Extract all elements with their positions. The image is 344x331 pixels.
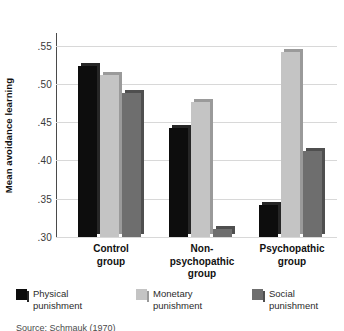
- x-tick-label-psychopathic: Psychopathic group: [237, 243, 344, 268]
- legend-item-monetary[interactable]: Monetary punishment: [136, 288, 202, 312]
- y-tick-label-30: .30: [37, 232, 52, 243]
- bar-monetary-punishment-1: [191, 102, 213, 237]
- bar-side-shade: [141, 90, 144, 234]
- legend-swatch-icon: [252, 289, 263, 300]
- bar-physical-punishment-1: [169, 128, 191, 237]
- y-tick-label-45: .45: [37, 117, 52, 128]
- bar-chart-figure: Mean avoidance learning .55 .50 .45 .40 …: [0, 0, 344, 331]
- legend-item-physical[interactable]: Physical punishment: [16, 288, 82, 312]
- source-caption: Source: Schmauk (1970): [16, 323, 116, 331]
- bar-social-punishment-1: [213, 229, 235, 237]
- bar-face: [100, 75, 119, 237]
- bar-group-psychopathic: [259, 33, 325, 237]
- bar-face: [259, 205, 278, 237]
- bar-side-shade: [210, 99, 213, 234]
- legend-swatch-shade: [263, 291, 265, 302]
- y-tick-label-35: .35: [37, 193, 52, 204]
- legend-label: Social punishment: [269, 288, 318, 312]
- bar-social-punishment-0: [122, 93, 144, 237]
- bar-face: [281, 52, 300, 237]
- y-tick-label-55: .55: [37, 40, 52, 51]
- y-axis-title: Mean avoidance learning: [2, 33, 16, 238]
- bar-face: [303, 151, 322, 237]
- bar-face: [213, 229, 232, 237]
- bar-face: [78, 66, 97, 237]
- legend-item-social[interactable]: Social punishment: [252, 288, 318, 312]
- bar-group-control: [78, 33, 144, 237]
- legend-swatch-icon: [16, 289, 27, 300]
- legend-label: Monetary punishment: [153, 288, 202, 312]
- x-label-line: Psychopathic: [237, 243, 344, 256]
- x-label-line: group: [147, 268, 257, 281]
- bar-face: [191, 102, 210, 237]
- y-tick-label-40: .40: [37, 155, 52, 166]
- bar-monetary-punishment-0: [100, 75, 122, 237]
- legend-label: Physical punishment: [33, 288, 82, 312]
- y-axis-line: [56, 33, 57, 238]
- y-axis-title-text: Mean avoidance learning: [4, 78, 15, 193]
- bar-physical-punishment-0: [78, 66, 100, 237]
- gridline-30: .30: [56, 237, 337, 238]
- chart-legend: Physical punishmentMonetary punishmentSo…: [16, 288, 336, 318]
- bar-side-shade: [322, 148, 325, 234]
- bar-social-punishment-2: [303, 151, 325, 237]
- bar-monetary-punishment-2: [281, 52, 303, 237]
- bar-group-non-psychopathic: [169, 33, 235, 237]
- bar-physical-punishment-2: [259, 205, 281, 237]
- y-tick-label-50: .50: [37, 78, 52, 89]
- x-label-line: group: [237, 256, 344, 269]
- bar-face: [169, 128, 188, 237]
- legend-swatch-shade: [147, 291, 149, 302]
- legend-swatch-shade: [27, 291, 29, 302]
- bar-face: [122, 93, 141, 237]
- plot-area: .55 .50 .45 .40 .35 .30: [56, 24, 337, 238]
- legend-swatch-icon: [136, 289, 147, 300]
